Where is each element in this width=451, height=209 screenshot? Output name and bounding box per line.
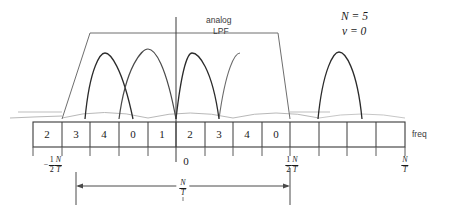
fraction-n-over-t-full: NT xyxy=(401,156,408,174)
lobe-right xyxy=(318,52,362,119)
tick-label-n-over-t: NT xyxy=(401,156,408,174)
channel-box-6[interactable]: 3 xyxy=(207,129,231,140)
tick-label-negative-half-n-over-t: −12NT xyxy=(44,156,62,174)
fraction-n-over-t-left: NT xyxy=(55,156,62,174)
frequency-axis-ticks xyxy=(33,147,405,156)
channel-box-5[interactable]: 2 xyxy=(178,129,202,140)
spectral-lobes-group xyxy=(85,49,362,119)
channel-box-8[interactable]: 0 xyxy=(264,129,288,140)
residual-lobe-1 xyxy=(62,113,148,119)
channel-box-2[interactable]: 4 xyxy=(92,129,116,140)
lobe-center-left xyxy=(119,49,176,119)
channel-box-7[interactable]: 4 xyxy=(235,129,259,140)
tick-label-positive-half-n-over-t: 12NT xyxy=(285,156,298,174)
span-arrow-label: NT xyxy=(176,179,189,197)
span-arrowhead-right xyxy=(283,183,290,188)
lobe-center-right-tail xyxy=(219,53,240,119)
channel-box-3[interactable]: 0 xyxy=(121,129,145,140)
parameter-n-label: N = 5 xyxy=(341,11,368,23)
channel-box-0[interactable]: 2 xyxy=(35,129,59,140)
analog-lpf-label-line2: LPF xyxy=(213,27,229,36)
baseline-residual-group xyxy=(10,112,405,118)
origin-zero-label: 0 xyxy=(183,156,189,167)
channel-box-4[interactable]: 1 xyxy=(150,129,174,140)
lobe-center-right xyxy=(176,53,219,119)
residual-curve-left xyxy=(10,116,62,118)
parameter-v-label: v = 0 xyxy=(342,26,366,38)
residual-lobe-3 xyxy=(233,113,319,118)
fraction-n-over-t-right: NT xyxy=(291,156,298,174)
freq-axis-label: freq xyxy=(412,130,427,139)
analog-lpf-label-line1: analog xyxy=(206,16,232,25)
figure-root: analog LPF N = 5 v = 0 freq 2 3 4 0 1 2 … xyxy=(0,0,451,209)
fraction-n-over-t-span: NT xyxy=(179,179,186,197)
span-arrowhead-left xyxy=(76,183,83,188)
channel-box-1[interactable]: 3 xyxy=(64,129,88,140)
